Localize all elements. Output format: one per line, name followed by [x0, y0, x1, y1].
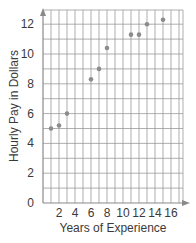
- y-tick-label: 8: [27, 77, 34, 91]
- y-axis-label: Hourly Pay in Dollars: [7, 50, 21, 162]
- data-point: [129, 32, 134, 37]
- data-point: [161, 17, 166, 22]
- data-point: [97, 67, 102, 72]
- x-tick-label: 10: [116, 206, 130, 220]
- x-tick-label: 16: [164, 206, 178, 220]
- x-tick-label: 4: [72, 206, 79, 220]
- grid-lines: [43, 10, 183, 203]
- y-tick-label: 6: [27, 107, 34, 121]
- data-point: [105, 46, 110, 51]
- y-tick-label: 4: [27, 136, 34, 150]
- data-point: [145, 22, 150, 27]
- data-point: [65, 111, 70, 116]
- y-tick-label: 10: [21, 47, 35, 61]
- data-point: [49, 126, 54, 131]
- y-tick-label: 12: [21, 17, 35, 31]
- x-tick-label: 6: [88, 206, 95, 220]
- y-tick-label: 0: [27, 196, 34, 210]
- x-tick-label: 2: [56, 206, 63, 220]
- y-axis-arrow-icon: [40, 8, 46, 16]
- data-point: [57, 123, 62, 128]
- x-tick-label: 12: [132, 206, 146, 220]
- y-tick-label: 2: [27, 166, 34, 180]
- x-tick-label: 8: [104, 206, 111, 220]
- scatter-chart: 246810121416024681012 Years of Experienc…: [0, 0, 196, 243]
- x-axis-arrow-icon: [182, 200, 190, 206]
- data-point: [89, 77, 94, 82]
- x-axis-label: Years of Experience: [60, 221, 167, 235]
- data-point: [137, 32, 142, 37]
- x-tick-label: 14: [148, 206, 162, 220]
